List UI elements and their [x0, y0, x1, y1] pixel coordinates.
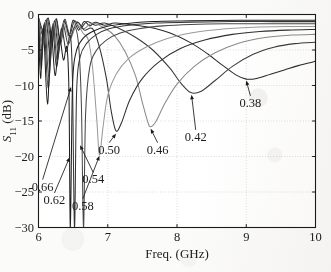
y-tick-label: −30 [14, 221, 34, 235]
x-tick-label: 7 [105, 230, 111, 244]
annotation-label-0.50: 0.50 [98, 143, 120, 157]
x-axis-label: Freq. (GHz) [145, 246, 209, 261]
figure-s11-vs-frequency: 6789100−5−10−15−20−25−30Freq. (GHz)S11 (… [0, 0, 331, 272]
y-tick-label: −15 [14, 114, 34, 128]
annotation-label-0.54: 0.54 [82, 172, 105, 186]
y-tick-label: −20 [14, 150, 34, 164]
annotation-label-0.66: 0.66 [32, 180, 54, 194]
x-tick-label: 10 [309, 230, 322, 244]
x-tick-label: 8 [174, 230, 180, 244]
y-tick-label: −10 [14, 79, 34, 93]
x-tick-label: 6 [35, 230, 41, 244]
annotation-label-0.62: 0.62 [43, 193, 65, 207]
annotation-label-0.46: 0.46 [147, 143, 169, 157]
chart-canvas: 6789100−5−10−15−20−25−30Freq. (GHz)S11 (… [0, 0, 331, 272]
x-tick-label: 9 [243, 230, 249, 244]
y-tick-label: −5 [21, 43, 34, 57]
annotation-label-0.42: 0.42 [185, 130, 207, 144]
annotation-label-0.58: 0.58 [72, 199, 94, 213]
y-tick-label: 0 [28, 8, 34, 22]
annotation-label-0.38: 0.38 [239, 96, 261, 110]
